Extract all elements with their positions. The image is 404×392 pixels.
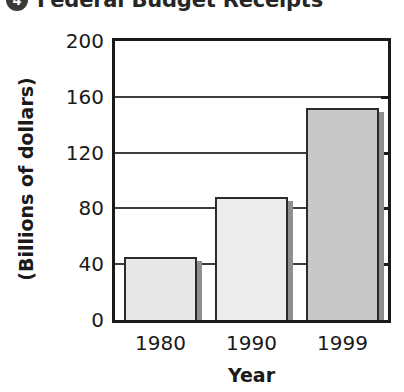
bar-1990 — [215, 197, 288, 320]
gridline — [115, 96, 388, 98]
plot-inner — [115, 41, 388, 320]
y-axis-tick-label: 40 — [42, 254, 104, 274]
y-axis-tick-label: 160 — [42, 87, 104, 107]
y-axis-tick-label: 120 — [42, 143, 104, 163]
x-axis-label: Year — [112, 364, 391, 386]
bar-1980 — [124, 257, 197, 320]
y-axis-tick-mark — [381, 96, 388, 99]
x-axis-tick-label: 1990 — [207, 331, 297, 355]
y-axis-tick-label: 200 — [42, 31, 104, 51]
y-axis-tick-label: 0 — [42, 310, 104, 330]
y-axis-label: (Billions of dollars) — [15, 49, 37, 309]
x-axis-tick-label: 1999 — [298, 331, 388, 355]
plot-area — [112, 38, 391, 323]
y-axis-tick-labels: 04080120160200 — [38, 0, 104, 392]
bar-1999 — [306, 108, 379, 320]
y-axis-tick-label: 80 — [42, 198, 104, 218]
x-axis-tick-label: 1980 — [116, 331, 206, 355]
bar-chart: (Billions of dollars) 04080120160200 198… — [0, 0, 404, 392]
